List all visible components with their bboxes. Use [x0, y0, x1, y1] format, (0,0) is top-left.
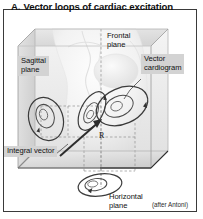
label-integral-vector: Integral vector: [4, 146, 57, 157]
label-vector-cardiogram: Vector cardiogram: [141, 54, 184, 74]
label-horizontal-plane: Horizontal plane: [106, 192, 146, 212]
label-r-vector: R: [99, 131, 104, 140]
figure-panel: A.Vector loops of cardiac excitation: [0, 0, 203, 219]
figure-artwork: [4, 11, 196, 211]
vector-loop-illustration: [4, 11, 196, 211]
label-frontal-plane: Frontal plane: [104, 31, 133, 51]
label-sagittal-plane: Sagittal plane: [18, 56, 49, 76]
figure-credit: (after Antoni): [152, 201, 188, 208]
